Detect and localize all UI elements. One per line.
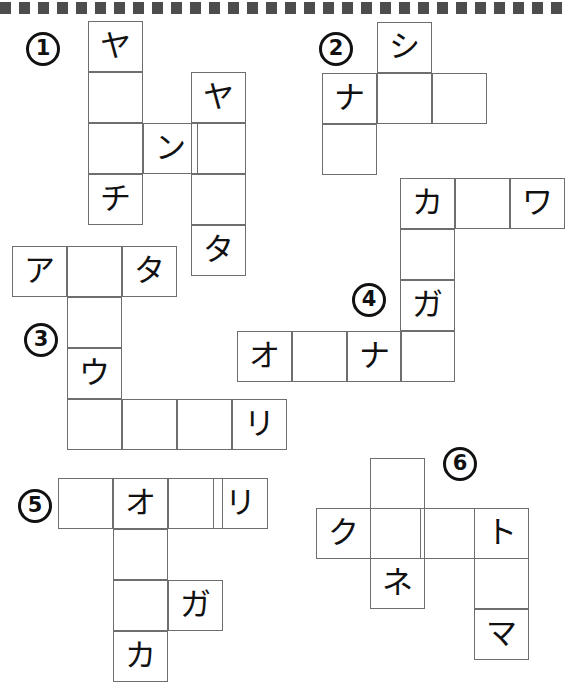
border-tick bbox=[19, 2, 30, 14]
cell-character: リ bbox=[225, 487, 256, 518]
cell-character: ガ bbox=[412, 289, 443, 320]
worksheet-page: 1ヤチンヤタ2シナ3アタウリ4カワガオナ5オリガカ6クトネマ bbox=[0, 0, 566, 686]
puzzle-cell-filled[interactable]: ト bbox=[474, 508, 529, 559]
puzzle-cell-empty[interactable] bbox=[322, 124, 377, 175]
puzzle-cell-empty[interactable] bbox=[400, 331, 455, 382]
cell-character: オ bbox=[249, 340, 280, 371]
puzzle-cell-filled[interactable]: ン bbox=[143, 123, 198, 174]
puzzle-cell-empty[interactable] bbox=[432, 73, 487, 124]
puzzle-cell-filled[interactable]: タ bbox=[191, 225, 246, 276]
puzzle-cell-empty[interactable] bbox=[292, 331, 347, 382]
cell-character: ト bbox=[486, 517, 517, 548]
puzzle-cell-filled[interactable]: リ bbox=[232, 399, 287, 450]
puzzle-cell-empty[interactable] bbox=[113, 529, 168, 580]
cell-character: タ bbox=[134, 255, 165, 286]
puzzle-number-5: 5 bbox=[18, 489, 52, 523]
cell-character: リ bbox=[244, 408, 275, 439]
puzzle-number-3: 3 bbox=[24, 323, 58, 357]
border-tick bbox=[475, 2, 486, 14]
puzzle-cell-empty[interactable] bbox=[177, 399, 232, 450]
puzzle-cell-filled[interactable]: オ bbox=[113, 478, 168, 529]
cell-character: シ bbox=[389, 31, 420, 62]
puzzle-number-label: 2 bbox=[329, 36, 344, 60]
border-tick bbox=[418, 2, 429, 14]
cell-character: ン bbox=[155, 132, 186, 163]
puzzle-cell-empty[interactable] bbox=[474, 558, 529, 609]
puzzle-number-label: 4 bbox=[362, 287, 377, 311]
puzzle-number-label: 3 bbox=[34, 327, 49, 351]
cell-character: ウ bbox=[79, 357, 110, 388]
border-tick bbox=[76, 2, 87, 14]
border-tick bbox=[114, 2, 125, 14]
border-tick bbox=[399, 2, 410, 14]
puzzle-cell-filled[interactable]: マ bbox=[474, 609, 529, 660]
puzzle-cell-filled[interactable]: ヤ bbox=[191, 72, 246, 123]
border-tick bbox=[38, 2, 49, 14]
border-tick bbox=[190, 2, 201, 14]
cell-character: オ bbox=[125, 487, 156, 518]
puzzle-cell-filled[interactable]: チ bbox=[88, 174, 143, 225]
border-tick bbox=[285, 2, 296, 14]
puzzle-cell-empty[interactable] bbox=[88, 72, 143, 123]
border-tick bbox=[152, 2, 163, 14]
puzzle-cell-filled[interactable]: ア bbox=[12, 246, 67, 297]
puzzle-cell-empty[interactable] bbox=[191, 174, 246, 225]
border-tick bbox=[361, 2, 372, 14]
puzzle-cell-filled[interactable]: ウ bbox=[67, 348, 122, 399]
border-tick bbox=[532, 2, 543, 14]
puzzle-cell-filled[interactable]: タ bbox=[122, 246, 177, 297]
puzzle-cell-filled[interactable]: ガ bbox=[400, 280, 455, 331]
cell-character: ア bbox=[24, 255, 55, 286]
puzzle-cell-empty[interactable] bbox=[420, 508, 475, 559]
puzzle-cell-filled[interactable]: ナ bbox=[347, 331, 402, 382]
puzzle-number-2: 2 bbox=[319, 32, 353, 66]
puzzle-cell-filled[interactable]: カ bbox=[113, 631, 168, 682]
cell-character: ヤ bbox=[100, 30, 131, 61]
puzzle-cell-filled[interactable]: ク bbox=[316, 508, 371, 559]
puzzle-cell-empty[interactable] bbox=[377, 73, 432, 124]
puzzle-cell-empty[interactable] bbox=[191, 123, 246, 174]
puzzle-cell-empty[interactable] bbox=[370, 508, 425, 559]
puzzle-number-label: 6 bbox=[453, 451, 468, 475]
puzzle-number-1: 1 bbox=[26, 32, 60, 66]
puzzle-number-label: 5 bbox=[28, 493, 43, 517]
puzzle-cell-filled[interactable]: ナ bbox=[322, 73, 377, 124]
puzzle-number-6: 6 bbox=[443, 447, 477, 481]
border-tick bbox=[57, 2, 68, 14]
puzzle-cell-empty[interactable] bbox=[400, 229, 455, 280]
puzzle-cell-filled[interactable]: シ bbox=[377, 22, 432, 73]
puzzle-cell-filled[interactable]: オ bbox=[237, 331, 292, 382]
puzzle-cell-filled[interactable]: ガ bbox=[168, 580, 223, 631]
puzzle-cell-filled[interactable]: ワ bbox=[510, 178, 565, 229]
border-tick bbox=[437, 2, 448, 14]
cell-character: ク bbox=[328, 517, 359, 548]
puzzle-cell-filled[interactable]: カ bbox=[400, 178, 455, 229]
puzzle-cell-empty[interactable] bbox=[122, 399, 177, 450]
border-tick bbox=[171, 2, 182, 14]
puzzle-cell-empty[interactable] bbox=[67, 246, 122, 297]
cell-character: カ bbox=[125, 640, 156, 671]
puzzle-cell-filled[interactable]: ヤ bbox=[88, 21, 143, 72]
border-tick bbox=[228, 2, 239, 14]
cell-character: ガ bbox=[180, 589, 211, 620]
puzzle-number-label: 1 bbox=[36, 36, 51, 60]
puzzle-cell-empty[interactable] bbox=[58, 478, 113, 529]
cell-character: タ bbox=[203, 234, 234, 265]
border-tick bbox=[323, 2, 334, 14]
cell-character: ワ bbox=[522, 187, 553, 218]
border-tick bbox=[551, 2, 562, 14]
puzzle-cell-empty[interactable] bbox=[88, 123, 143, 174]
border-tick bbox=[304, 2, 315, 14]
puzzle-cell-filled[interactable]: リ bbox=[213, 478, 268, 529]
puzzle-cell-empty[interactable] bbox=[113, 580, 168, 631]
puzzle-cell-empty[interactable] bbox=[455, 178, 510, 229]
puzzle-cell-empty[interactable] bbox=[370, 458, 425, 509]
border-tick bbox=[266, 2, 277, 14]
puzzle-cell-filled[interactable]: ネ bbox=[370, 558, 425, 609]
puzzle-cell-empty[interactable] bbox=[67, 297, 122, 348]
cell-character: ナ bbox=[359, 340, 390, 371]
cell-character: ヤ bbox=[203, 81, 234, 112]
border-tick bbox=[380, 2, 391, 14]
cell-character: ネ bbox=[382, 567, 413, 598]
puzzle-cell-empty[interactable] bbox=[67, 399, 122, 450]
